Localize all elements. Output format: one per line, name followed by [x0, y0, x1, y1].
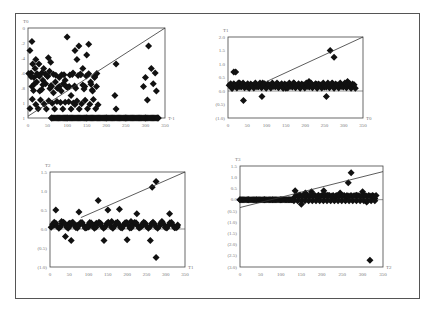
data-point — [142, 74, 149, 81]
plot-area-1 — [228, 37, 363, 118]
x-tick-label: 300 — [162, 272, 170, 277]
y-tick-label: (3.0) — [227, 265, 237, 270]
y-tick-label: 2.0 — [219, 35, 226, 40]
y-axis-title: T0 — [23, 19, 29, 24]
data-point — [26, 47, 33, 54]
y-tick-label: 1.0 — [231, 175, 238, 180]
y-tick-label: (1.0) — [227, 220, 237, 225]
data-point — [258, 93, 265, 100]
x-tick-label: 200 — [123, 272, 131, 277]
y-tick-label: 0.0 — [41, 227, 48, 232]
data-point — [28, 38, 35, 45]
data-point — [153, 88, 160, 95]
y-tick-label: 1.0 — [219, 62, 226, 67]
x-tick-label: 150 — [282, 123, 290, 128]
y-tick-label: 1.5 — [219, 48, 226, 53]
x-tick-label: 150 — [298, 272, 306, 277]
x-tick-label: 350 — [161, 123, 169, 128]
data-point — [366, 257, 373, 264]
x-tick-label: 0 — [49, 272, 52, 277]
data-point — [240, 97, 247, 104]
x-tick-label: 300 — [340, 123, 348, 128]
data-point — [148, 65, 155, 72]
x-tick-label: 300 — [359, 272, 367, 277]
y-tick-label: 0.0 — [231, 197, 238, 202]
x-tick-label: 50 — [45, 123, 51, 128]
x-tick-label: 50 — [67, 272, 73, 277]
x-axis-title: T1 — [188, 265, 194, 270]
x-tick-label: 200 — [103, 123, 111, 128]
data-point — [111, 92, 118, 99]
y-tick-label: (2.0) — [227, 242, 237, 247]
y-tick-label: (1.0) — [37, 265, 47, 270]
data-point — [124, 236, 131, 243]
y-tick-label: 0.5 — [219, 75, 226, 80]
data-point — [150, 80, 157, 87]
data-point — [68, 92, 75, 99]
x-tick-label: 350 — [379, 272, 387, 277]
data-point — [113, 106, 120, 113]
x-tick-label: 200 — [318, 272, 326, 277]
y-tick-label: 1.5 — [231, 164, 238, 169]
data-point — [323, 93, 330, 100]
x-tick-label: 0 — [27, 123, 30, 128]
data-point — [73, 56, 80, 63]
y-tick-label: 0.0 — [219, 89, 226, 94]
x-axis-title: T2 — [386, 265, 392, 270]
y-tick-label: (0.5) — [227, 209, 237, 214]
y-tick-label: (0.5) — [215, 102, 225, 107]
data-point — [133, 210, 140, 217]
x-tick-label: 250 — [122, 123, 130, 128]
x-tick-label: 50 — [258, 272, 264, 277]
y-tick-label: 1.0 — [41, 189, 48, 194]
data-point — [95, 197, 102, 204]
data-point — [75, 43, 82, 50]
x-tick-label: 250 — [321, 123, 329, 128]
x-tick-label: 350 — [359, 123, 367, 128]
x-axis-title: T0 — [366, 116, 372, 121]
x-tick-label: 0 — [227, 123, 230, 128]
y-tick-label: .4 — [21, 56, 25, 61]
x-tick-label: 100 — [263, 123, 271, 128]
data-point — [75, 208, 82, 215]
data-point — [101, 237, 108, 244]
y-tick-label: .8 — [21, 86, 25, 91]
x-tick-label: 100 — [63, 123, 71, 128]
y-tick-label: (0.5) — [37, 246, 47, 251]
data-point — [83, 52, 90, 59]
data-point — [331, 54, 338, 61]
plot-area-3 — [240, 166, 383, 267]
data-point — [140, 83, 147, 90]
x-tick-label: 250 — [143, 272, 151, 277]
y-tick-label: (1.0) — [215, 116, 225, 121]
data-point — [348, 169, 355, 176]
y-tick-label: 0.5 — [231, 186, 238, 191]
x-axis-title: T-1 — [168, 116, 175, 121]
data-point — [104, 207, 111, 214]
data-point — [85, 41, 92, 48]
data-point — [68, 237, 75, 244]
data-point — [71, 47, 78, 54]
data-point — [153, 254, 160, 261]
x-tick-label: 250 — [338, 272, 346, 277]
data-point — [145, 43, 152, 50]
y-axis-title: T1 — [223, 28, 229, 33]
trendline — [267, 37, 363, 82]
x-tick-label: 200 — [301, 123, 309, 128]
x-tick-label: 50 — [245, 123, 251, 128]
data-point — [152, 70, 159, 77]
y-tick-label: 1 — [23, 116, 26, 121]
x-tick-label: 100 — [85, 272, 93, 277]
data-point — [62, 233, 69, 240]
data-point — [52, 207, 59, 214]
y-tick-label: 1.5 — [41, 170, 48, 175]
scatter-plots: 0.2.4.6.811050100150200250300350T0T-12.0… — [0, 0, 434, 313]
x-tick-label: 150 — [83, 123, 91, 128]
data-point — [64, 34, 71, 41]
data-point — [116, 206, 123, 213]
data-point — [166, 210, 173, 217]
y-tick-label: 0.5 — [41, 208, 48, 213]
y-tick-label: 1 — [23, 101, 26, 106]
y-tick-label: (1.5) — [227, 231, 237, 236]
data-point — [144, 97, 151, 104]
